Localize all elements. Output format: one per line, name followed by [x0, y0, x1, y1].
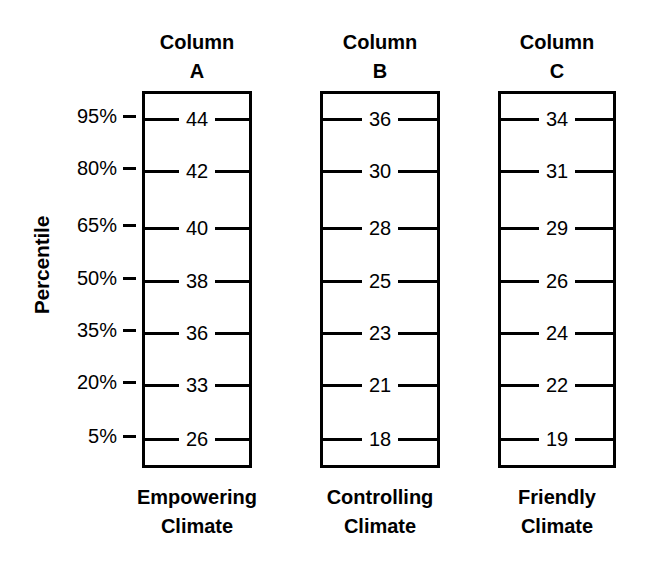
- value-row: 31: [501, 158, 613, 184]
- row-rule-left: [323, 170, 362, 173]
- row-rule-right: [215, 227, 249, 230]
- row-rule-right: [398, 118, 437, 121]
- value-cell: 33: [179, 375, 215, 395]
- value-cell: 31: [539, 161, 575, 181]
- column-a-footer-line2: Climate: [97, 512, 297, 541]
- column-b-footer-line2: Climate: [280, 512, 480, 541]
- column-c-footer: Friendly Climate: [457, 483, 655, 541]
- row-rule-right: [575, 438, 613, 441]
- tick-dash-icon: [123, 224, 136, 227]
- value-cell: 28: [362, 218, 398, 238]
- value-row: 18: [323, 426, 437, 452]
- column-c-header-line2: C: [472, 57, 642, 86]
- value-cell: 36: [179, 323, 215, 343]
- column-c-header: Column C: [472, 28, 642, 86]
- value-cell: 26: [539, 271, 575, 291]
- row-rule-right: [215, 118, 249, 121]
- value-cell: 24: [539, 323, 575, 343]
- tick-dash-icon: [123, 115, 136, 118]
- row-rule-left: [323, 332, 362, 335]
- row-rule-left: [145, 170, 179, 173]
- percentile-tick-label: 50%: [77, 268, 117, 288]
- tick-dash-icon: [123, 329, 136, 332]
- value-cell: 19: [539, 429, 575, 449]
- column-a-header-line1: Column: [160, 31, 234, 53]
- tick-dash-icon: [123, 435, 136, 438]
- column-a-footer-line1: Empowering: [137, 486, 257, 508]
- percentile-tick-label: 20%: [77, 372, 117, 392]
- row-rule-right: [215, 170, 249, 173]
- row-rule-right: [398, 170, 437, 173]
- value-row: 42: [145, 158, 249, 184]
- percentile-tick: 50%: [62, 265, 142, 291]
- value-row: 19: [501, 426, 613, 452]
- row-rule-left: [501, 332, 539, 335]
- value-cell: 23: [362, 323, 398, 343]
- value-row: 36: [323, 106, 437, 132]
- row-rule-left: [501, 384, 539, 387]
- column-a: Column A 44 42 40 38 36: [142, 91, 252, 468]
- row-rule-left: [323, 280, 362, 283]
- value-row: 36: [145, 320, 249, 346]
- row-rule-left: [501, 280, 539, 283]
- row-rule-right: [215, 332, 249, 335]
- row-rule-right: [398, 332, 437, 335]
- column-c: Column C 34 31 29 26 24: [498, 91, 616, 468]
- percentile-norms-chart: Percentile 95% 80% 65% 50% 35% 20% 5%: [0, 0, 655, 567]
- row-rule-left: [323, 227, 362, 230]
- row-rule-left: [145, 384, 179, 387]
- row-rule-left: [145, 280, 179, 283]
- column-c-footer-line2: Climate: [457, 512, 655, 541]
- percentile-tick-label: 65%: [77, 215, 117, 235]
- column-a-header: Column A: [112, 28, 282, 86]
- row-rule-left: [501, 438, 539, 441]
- row-rule-left: [145, 438, 179, 441]
- value-cell: 38: [179, 271, 215, 291]
- column-b-footer-line1: Controlling: [327, 486, 434, 508]
- row-rule-right: [215, 384, 249, 387]
- row-rule-left: [501, 227, 539, 230]
- tick-dash-icon: [123, 277, 136, 280]
- value-row: 38: [145, 268, 249, 294]
- value-row: 29: [501, 215, 613, 241]
- percentile-tick: 65%: [62, 212, 142, 238]
- value-row: 22: [501, 372, 613, 398]
- value-cell: 29: [539, 218, 575, 238]
- row-rule-right: [575, 384, 613, 387]
- row-rule-right: [575, 118, 613, 121]
- row-rule-right: [215, 280, 249, 283]
- percentile-tick: 80%: [62, 155, 142, 181]
- percentile-tick: 35%: [62, 317, 142, 343]
- tick-dash-icon: [123, 167, 136, 170]
- value-cell: 25: [362, 271, 398, 291]
- row-rule-left: [145, 332, 179, 335]
- row-rule-right: [575, 332, 613, 335]
- row-rule-right: [575, 227, 613, 230]
- row-rule-left: [145, 118, 179, 121]
- row-rule-left: [323, 438, 362, 441]
- value-cell: 44: [179, 109, 215, 129]
- percentile-tick-label: 35%: [77, 320, 117, 340]
- row-rule-right: [398, 227, 437, 230]
- row-rule-right: [575, 280, 613, 283]
- value-row: 24: [501, 320, 613, 346]
- value-cell: 42: [179, 161, 215, 181]
- value-row: 23: [323, 320, 437, 346]
- column-b-header-line2: B: [295, 57, 465, 86]
- row-rule-left: [145, 227, 179, 230]
- row-rule-right: [398, 280, 437, 283]
- percentile-tick: 20%: [62, 369, 142, 395]
- row-rule-right: [575, 170, 613, 173]
- y-axis-title: Percentile: [30, 185, 54, 345]
- value-cell: 22: [539, 375, 575, 395]
- column-c-header-line1: Column: [520, 31, 594, 53]
- percentile-tick: 95%: [62, 103, 142, 129]
- row-rule-right: [398, 384, 437, 387]
- row-rule-left: [501, 118, 539, 121]
- value-cell: 18: [362, 429, 398, 449]
- value-cell: 26: [179, 429, 215, 449]
- column-c-footer-line1: Friendly: [518, 486, 596, 508]
- percentile-tick: 5%: [62, 423, 142, 449]
- column-b-footer: Controlling Climate: [280, 483, 480, 541]
- value-row: 28: [323, 215, 437, 241]
